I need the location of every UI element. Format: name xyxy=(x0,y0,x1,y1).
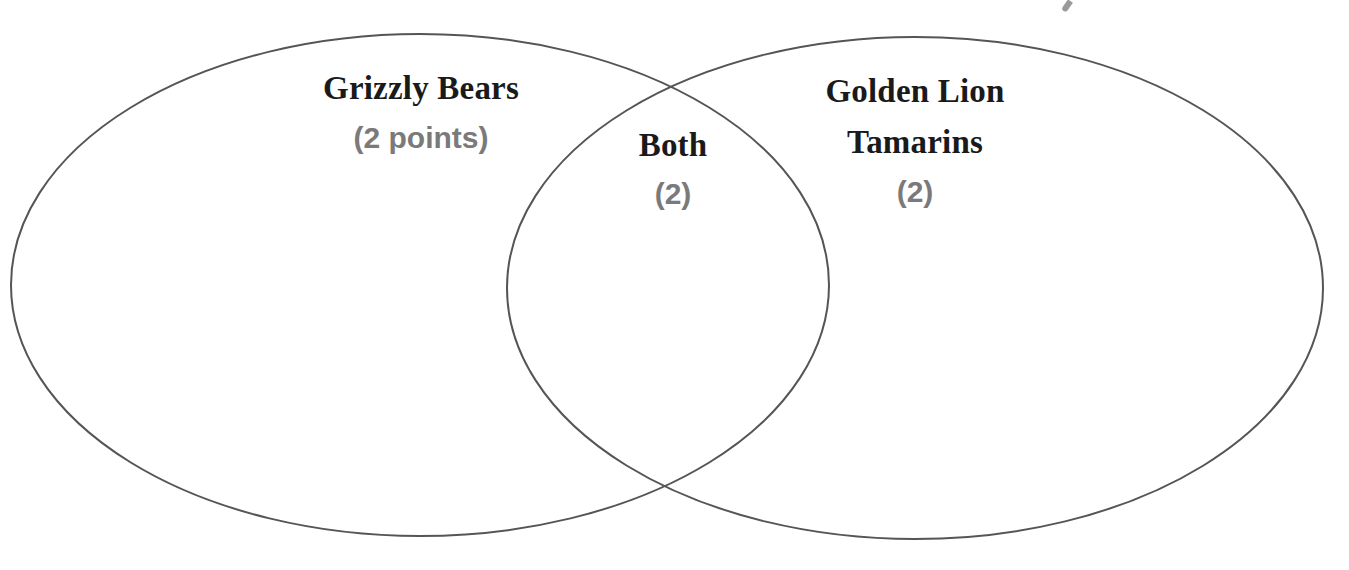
golden-lion-title-line2: Tamarins xyxy=(847,124,983,161)
golden-lion-tamarins-ellipse xyxy=(507,37,1323,539)
golden-lion-title-line1: Golden Lion xyxy=(825,73,1004,110)
venn-diagram xyxy=(0,0,1349,570)
both-points: (2) xyxy=(655,177,692,211)
grizzly-bears-points: (2 points) xyxy=(354,121,489,155)
both-title: Both xyxy=(639,127,708,164)
grizzly-bears-ellipse xyxy=(11,34,829,536)
golden-lion-points: (2) xyxy=(897,175,934,209)
grizzly-bears-title: Grizzly Bears xyxy=(323,70,519,107)
